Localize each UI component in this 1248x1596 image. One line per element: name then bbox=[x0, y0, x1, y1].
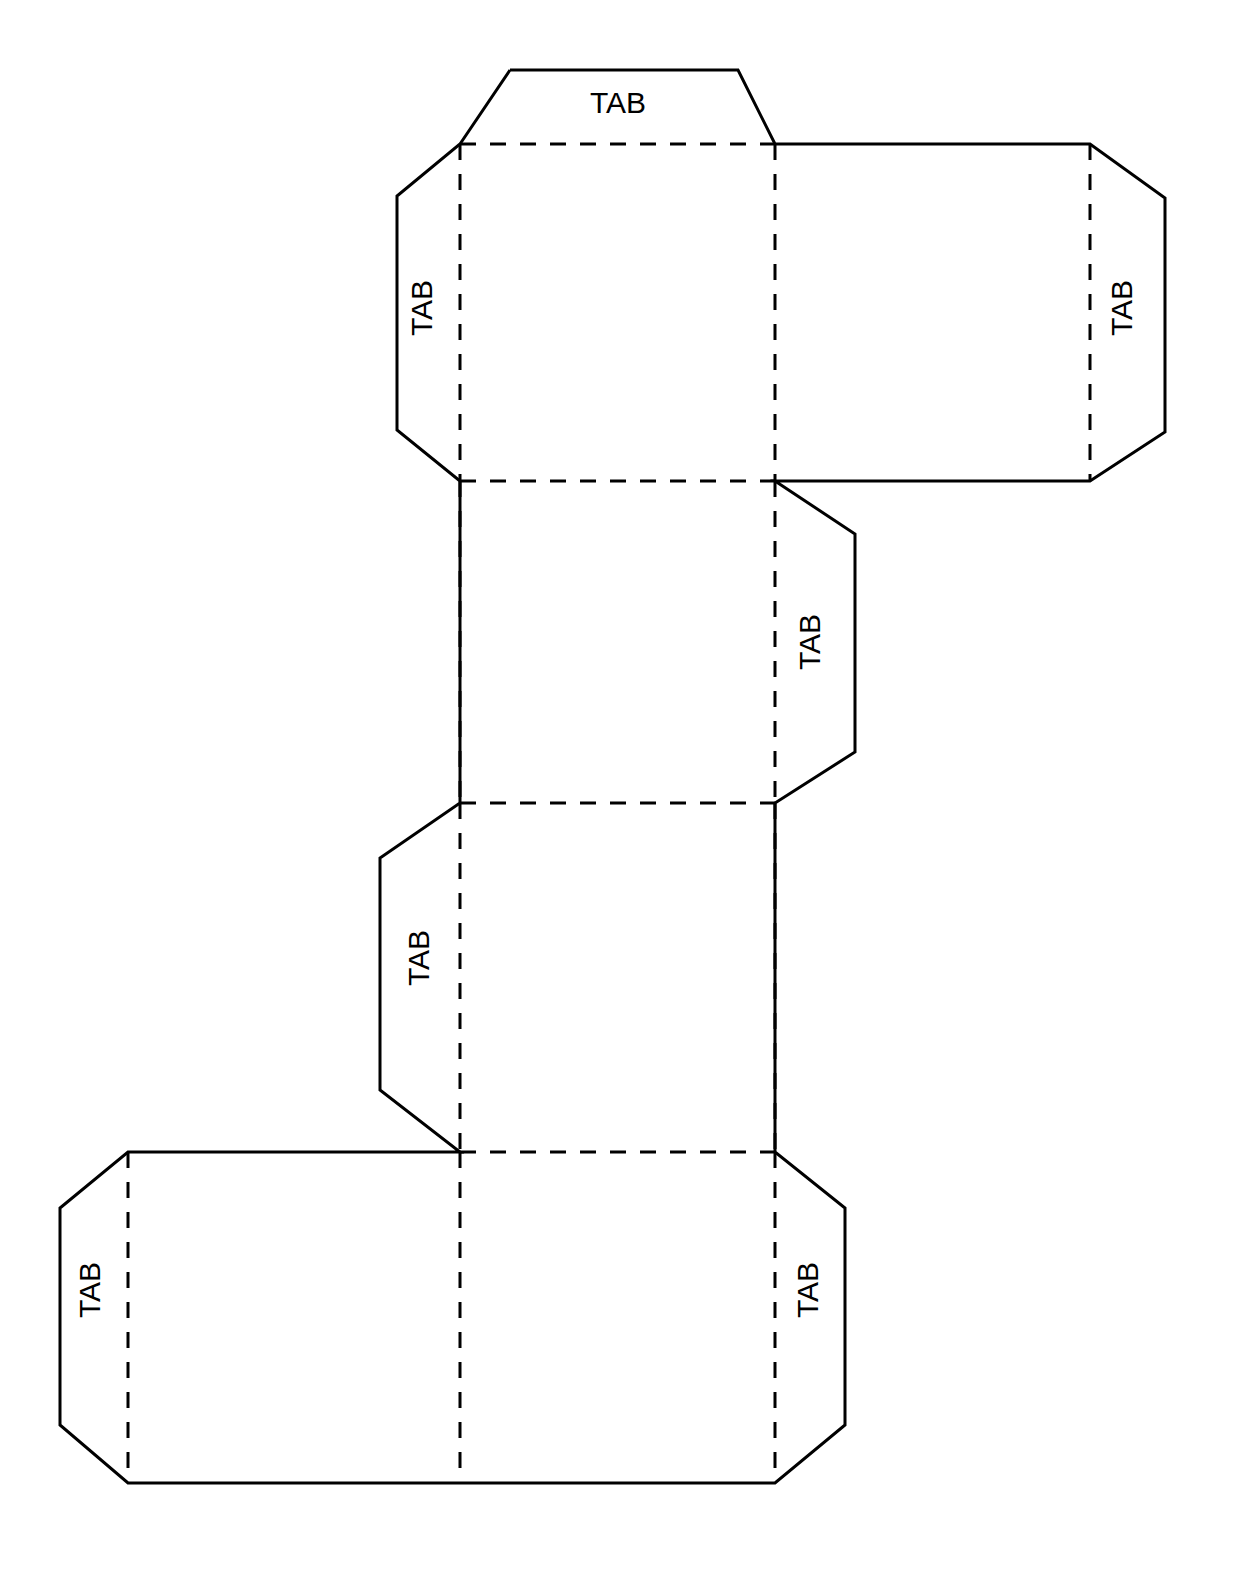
tab-bottom-right-label: TAB bbox=[791, 1262, 824, 1318]
tab-middle-right-label: TAB bbox=[793, 614, 826, 670]
panel-upper-middle-face bbox=[460, 481, 775, 803]
tab-far-right-label: TAB bbox=[1105, 280, 1138, 336]
tab-middle-left-label: TAB bbox=[402, 930, 435, 986]
panel-bottom-left-face bbox=[128, 1152, 460, 1483]
papercraft-net-canvas: TABTABTABTABTABTABTAB bbox=[0, 0, 1248, 1596]
tab-top-label: TAB bbox=[590, 86, 646, 119]
tab-bottom-left-label: TAB bbox=[73, 1262, 106, 1318]
net-diagram: TABTABTABTABTABTABTAB bbox=[0, 0, 1248, 1596]
panel-lower-middle-face bbox=[460, 803, 775, 1152]
panel-right-face bbox=[775, 144, 1090, 481]
panel-top-face bbox=[460, 144, 775, 481]
panel-bottom-right-face bbox=[460, 1152, 775, 1483]
tab-top-left-label: TAB bbox=[405, 280, 438, 336]
